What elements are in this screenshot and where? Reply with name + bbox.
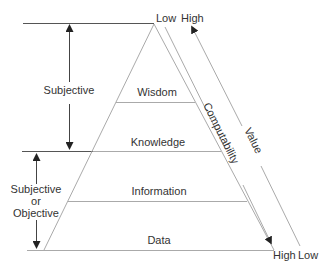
computability-high-label: High [273,249,296,261]
value-label: Value [242,126,265,156]
computability-label: Computability [201,101,242,166]
dikw-diagram: Wisdom Knowledge Information Data Subjec… [0,0,333,267]
level-label-information: Information [131,185,186,197]
value-low-label: Low [298,249,318,261]
subjective-objective-label-3: Objective [13,207,59,219]
subjective-objective-label-1: Subjective [11,183,62,195]
computability-low-label: Low [156,12,176,24]
subjective-objective-label-2: or [31,195,41,207]
computability-arrow [243,185,270,241]
subjective-label: Subjective [44,84,95,96]
level-label-knowledge: Knowledge [131,136,185,148]
level-label-data: Data [147,234,171,246]
level-label-wisdom: Wisdom [137,86,177,98]
value-high-label: High [181,12,204,24]
